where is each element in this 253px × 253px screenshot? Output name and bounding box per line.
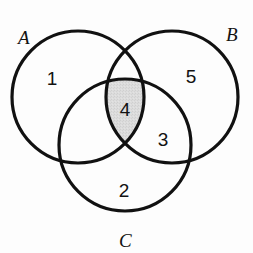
venn-diagram-figure: A B C 1 5 2 3 4 bbox=[0, 0, 253, 253]
set-a-label: A bbox=[16, 27, 30, 48]
region-label-b-and-c: 3 bbox=[158, 129, 169, 150]
set-b-label: B bbox=[226, 24, 238, 45]
region-label-b-only: 5 bbox=[186, 66, 197, 87]
region-label-a-only: 1 bbox=[47, 68, 58, 89]
set-c-label: C bbox=[119, 230, 132, 251]
region-label-a-b-and-c: 4 bbox=[120, 99, 131, 120]
region-label-c-only: 2 bbox=[119, 180, 130, 201]
venn-diagram-canvas: A B C 1 5 2 3 4 bbox=[0, 0, 253, 253]
